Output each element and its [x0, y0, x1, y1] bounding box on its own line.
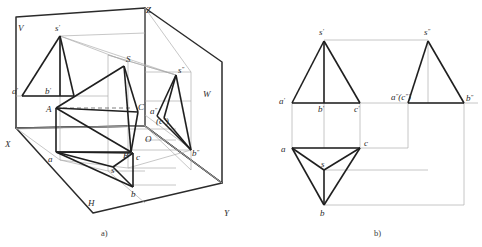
label-a-prime-a: a′ [12, 86, 19, 97]
label-vertex-S: S [126, 54, 131, 64]
label-front-b: b′ [318, 104, 325, 115]
label-b-dprime-a: b″ [192, 148, 200, 159]
label-axis-Y: Y [224, 208, 230, 218]
tv-edge-as [292, 148, 324, 170]
frontal-plane-outline [16, 8, 145, 128]
tv-edge-ab [292, 148, 324, 205]
label-vertex-A: A [45, 104, 52, 114]
label-s-dprime-a: s″ [178, 65, 185, 76]
label-side-b: b″ [466, 93, 474, 104]
label-s-top-a: s [111, 165, 115, 175]
label-top-c: c [364, 138, 368, 148]
box-line-8 [145, 8, 191, 72]
pyramid-pictorial [56, 66, 138, 152]
label-top-a: a [281, 144, 286, 154]
label-top-b: b [320, 208, 325, 218]
label-s-prime-a: s′ [55, 23, 61, 34]
edge-AB [56, 108, 131, 152]
fp-edge-sa [22, 36, 60, 96]
label-c-top-a: c [136, 152, 140, 162]
box-line-11 [145, 126, 191, 170]
label-front-c: c′ [354, 104, 360, 115]
label-side-a-c: a″(c″) [391, 92, 411, 103]
box-line-22 [108, 171, 145, 203]
label-axis-X: X [4, 139, 11, 149]
tv-edge-cs [324, 148, 360, 170]
label-origin-O: O [145, 134, 152, 144]
edge-BC [131, 112, 138, 152]
figure-sheet: V H W X Y Z O S A B C s′ a′ b′ s a b c s… [0, 0, 482, 247]
label-plane-W: W [203, 89, 212, 99]
label-vertex-C: C [138, 102, 145, 112]
projector-s2 [108, 55, 176, 75]
fp-edge-sb [60, 36, 74, 96]
tp-edge-ac [56, 152, 133, 153]
box-line-23 [145, 126, 222, 183]
front-view-outline [292, 41, 360, 103]
label-b-top-a: b [131, 189, 136, 199]
label-side-apex: s″ [424, 27, 431, 38]
tv-edge-cb [324, 148, 360, 205]
side-view-outline [408, 41, 464, 103]
label-c-dprime-a: (c″) [156, 116, 169, 127]
reference-lines [292, 40, 478, 205]
sv-edge-s-b [428, 41, 464, 103]
sp-edge-sb [176, 75, 191, 150]
fv-edge-s-a [292, 41, 324, 103]
technical-drawing: V H W X Y Z O S A B C s′ a′ b′ s a b c s… [0, 0, 482, 247]
top-view-outline [292, 148, 360, 205]
panel-b: s′ a′ b′ c′ a b c s s″ a″(c″) b″ b) [279, 27, 478, 239]
label-axis-Z: Z [146, 5, 152, 15]
label-front-a: a′ [279, 96, 286, 107]
panel-a: V H W X Y Z O S A B C s′ a′ b′ s a b c s… [4, 5, 230, 238]
tp-edge-ab [56, 152, 133, 187]
caption-b: b) [374, 228, 381, 238]
edge-AC-vis [56, 108, 138, 112]
caption-a: a) [101, 228, 108, 238]
label-plane-H: H [87, 198, 95, 208]
fv-edge-s-c [324, 41, 360, 103]
top-projection-pictorial [56, 152, 133, 187]
label-b-prime-a: b′ [45, 86, 52, 97]
box-line-14 [60, 33, 145, 36]
label-a-top-a: a [48, 154, 53, 164]
label-plane-V: V [18, 23, 25, 33]
edge-SA [56, 66, 124, 108]
label-front-apex: s′ [319, 27, 325, 38]
sv-edge-s-a [408, 41, 428, 103]
label-top-s: s [321, 159, 325, 169]
box-line-21 [16, 128, 60, 160]
label-vertex-B: B [123, 150, 129, 160]
label-a-dprime-a: a″ [150, 106, 158, 117]
